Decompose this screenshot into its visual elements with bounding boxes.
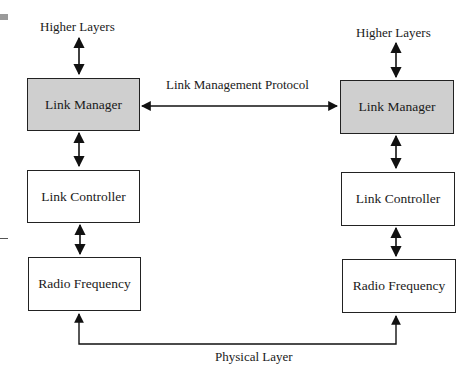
left-radio-frequency-box: Radio Frequency: [28, 257, 141, 311]
right-link-manager-box: Link Manager: [340, 80, 454, 134]
physical-layer-link: [79, 314, 396, 344]
right-link-controller-box: Link Controller: [341, 172, 455, 226]
left-link-controller-box: Link Controller: [27, 170, 140, 223]
lmp-label: Link Management Protocol: [166, 77, 309, 93]
left-link-manager-box: Link Manager: [27, 78, 140, 131]
right-radio-frequency-box: Radio Frequency: [342, 259, 456, 313]
right-higher-layers-label: Higher Layers: [356, 25, 431, 41]
left-higher-layers-label: Higher Layers: [40, 19, 115, 35]
physical-layer-label: Physical Layer: [215, 349, 293, 365]
